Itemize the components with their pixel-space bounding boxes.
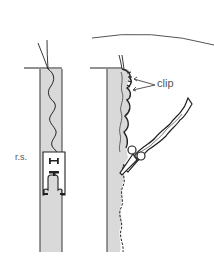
- thread-tail: [119, 55, 122, 69]
- clip-leader-lines: [133, 77, 155, 91]
- thread-tail: [38, 43, 48, 69]
- thread-tail: [122, 55, 124, 69]
- thread-tail: [47, 40, 48, 69]
- garment-edge-arc: [92, 34, 214, 45]
- sewing-illustration: [0, 0, 214, 264]
- clip-label: clip: [157, 78, 174, 89]
- right-panel: [90, 34, 214, 252]
- left-panel: [24, 40, 65, 252]
- fabric-strip-right: [107, 69, 131, 252]
- right-side-label: r.s.: [15, 153, 27, 162]
